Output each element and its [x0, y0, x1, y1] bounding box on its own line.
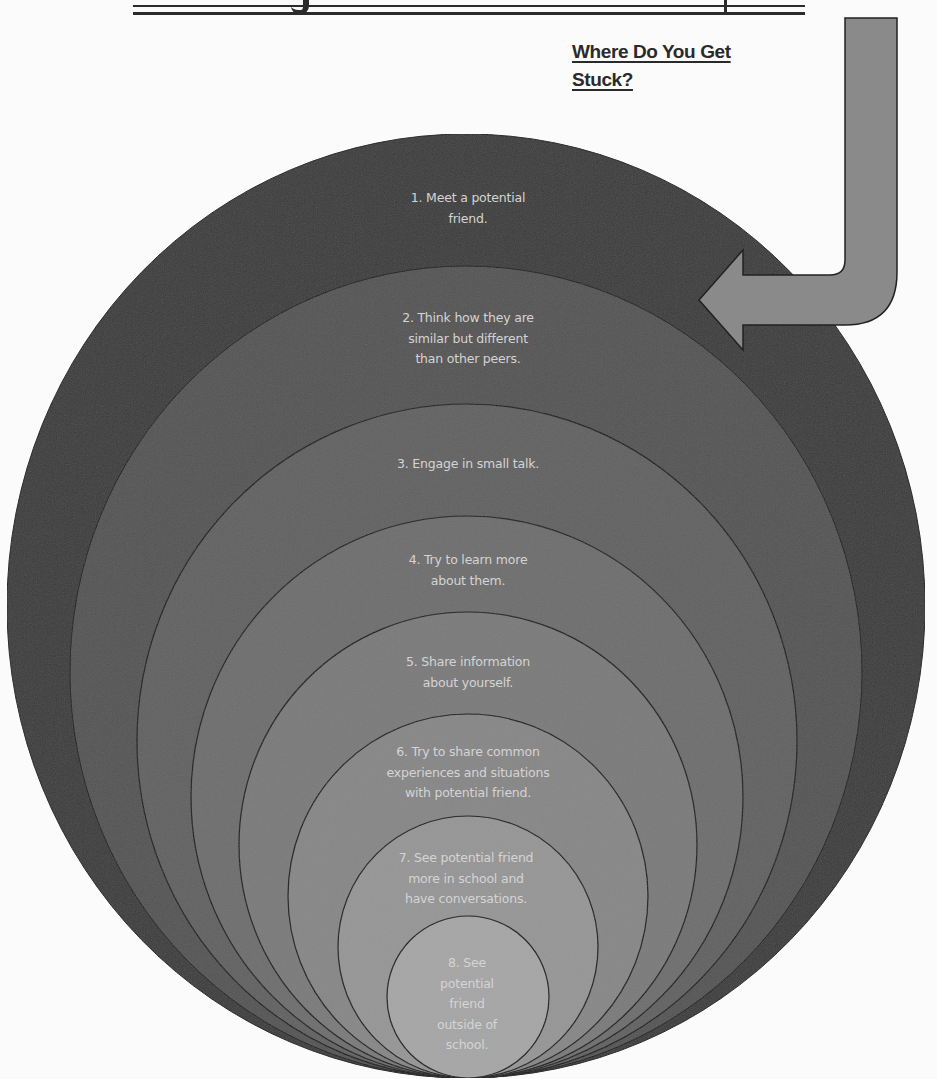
ring-7-label-line: more in school and — [399, 869, 534, 890]
ring-6-label-line: 6. Try to share common — [387, 742, 550, 763]
ring-6-label-line: with potential friend. — [387, 783, 550, 804]
curved-arrow-left-icon — [699, 18, 897, 350]
ring-8-label-line: 8. See — [437, 953, 497, 974]
ring-3-label: 3. Engage in small talk. — [397, 454, 539, 475]
ring-1-label-line: friend. — [411, 209, 525, 230]
ring-3-label-line: 3. Engage in small talk. — [397, 454, 539, 475]
ring-2-label-line: 2. Think how they are — [402, 308, 534, 329]
ring-4-label-line: about them. — [409, 571, 528, 592]
ring-4-label: 4. Try to learn more about them. — [409, 550, 528, 591]
ring-2-label-line: similar but different — [402, 329, 534, 350]
ring-6-label-line: experiences and situations — [387, 763, 550, 784]
ring-8-label-line: outside of — [437, 1015, 497, 1036]
ring-4-label-line: 4. Try to learn more — [409, 550, 528, 571]
ring-5-label: 5. Share information about yourself. — [406, 652, 530, 693]
ring-5-label-line: 5. Share information — [406, 652, 530, 673]
ring-6-label: 6. Try to share common experiences and s… — [387, 742, 550, 804]
ring-8-label-line: friend — [437, 994, 497, 1015]
friendship-rings-diagram — [0, 0, 937, 1079]
ring-5-label-line: about yourself. — [406, 673, 530, 694]
ring-2-label-line: than other peers. — [402, 349, 534, 370]
ring-8-label-line: school. — [437, 1035, 497, 1056]
ring-1-label-line: 1. Meet a potential — [411, 188, 525, 209]
ring-7-label: 7. See potential friend more in school a… — [399, 848, 534, 910]
ring-7-label-line: have conversations. — [399, 889, 534, 910]
ring-7-label-line: 7. See potential friend — [399, 848, 534, 869]
ring-8-label-line: potential — [437, 974, 497, 995]
ring-2-label: 2. Think how they are similar but differ… — [402, 308, 534, 370]
ring-1-label: 1. Meet a potential friend. — [411, 188, 525, 229]
ring-8-label: 8. See potential friend outside of schoo… — [437, 953, 497, 1056]
